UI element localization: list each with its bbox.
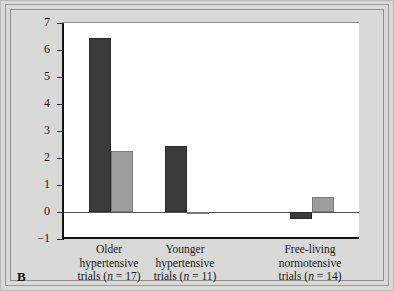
y-tick-mark [57,50,64,51]
y-tick-mark [57,239,64,240]
n-prefix: trials ( [77,270,107,282]
y-tick-mark [57,158,64,159]
n-prefix: trials ( [154,270,184,282]
panel-label: B [17,269,26,285]
n-value: = 11) [189,270,216,282]
y-tick-label: 5 [10,70,50,82]
y-tick-label: 4 [10,97,50,109]
y-tick-mark [57,104,64,105]
y-tick-label: −1 [10,232,50,244]
y-tick-label: 2 [10,151,50,163]
n-value: = 14) [314,270,342,282]
category-label-2: Youngerhypertensivetrials (n = 11) [138,243,232,284]
category-label-line1: Free-living [263,243,357,257]
category-label-3: Free-livingnormotensivetrials (n = 14) [263,243,357,284]
y-tick-mark [57,23,64,24]
zero-baseline [64,212,359,213]
y-tick-label: 6 [10,43,50,55]
category-label-line1: Younger [138,243,232,257]
category-label-line2: normotensive [263,257,357,271]
category-label-line2: hypertensive [138,257,232,271]
figure-panel: Δ Blood pressure, mm Hg 76543210−1 Older… [0,0,394,291]
y-tick-mark [57,185,64,186]
y-tick-mark [57,212,64,213]
y-tick-label: 3 [10,124,50,136]
n-prefix: trials ( [278,270,308,282]
y-tick-label: 7 [10,16,50,28]
category-label-line3: trials (n = 14) [263,270,357,284]
bar-dark-group-1 [89,38,111,212]
bar-dark-group-2 [165,146,187,212]
bar-dark-group-3 [290,212,312,219]
y-tick-mark [57,77,64,78]
bar-light-group-1 [111,151,133,212]
category-label-line3: trials (n = 11) [138,270,232,284]
y-tick-label: 0 [10,205,50,217]
plot-area: 76543210−1 [62,23,359,239]
y-tick-mark [57,131,64,132]
y-tick-label: 1 [10,178,50,190]
bar-light-group-3 [312,197,334,212]
n-value: = 17) [113,270,141,282]
bar-light-group-2 [187,212,209,214]
